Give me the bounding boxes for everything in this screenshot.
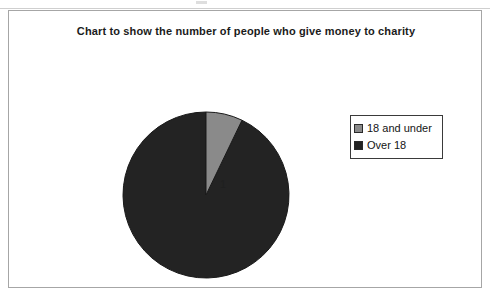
scan-artifact-speck <box>196 1 207 4</box>
legend-label-18-and-under: 18 and under <box>367 123 432 134</box>
scan-artifact-line <box>0 8 490 9</box>
chart-legend: 18 and under Over 18 <box>350 115 443 159</box>
chart-title: Chart to show the number of people who g… <box>9 25 483 37</box>
legend-item-over-18: Over 18 <box>354 137 438 154</box>
pie-svg <box>115 102 297 288</box>
pie-data-label-18-and-under: 1 <box>220 178 226 190</box>
legend-swatch-icon-over-18 <box>354 141 363 150</box>
legend-label-over-18: Over 18 <box>367 140 406 151</box>
chart-frame: Chart to show the number of people who g… <box>8 10 482 288</box>
legend-swatch-icon-18-and-under <box>354 124 363 133</box>
pie-chart: 1 13 <box>115 102 297 288</box>
legend-item-18-and-under: 18 and under <box>354 120 438 137</box>
